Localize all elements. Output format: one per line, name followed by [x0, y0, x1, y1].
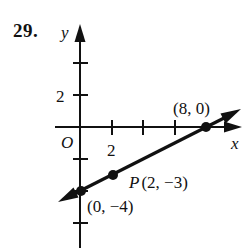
y-tick-label-2: 2 [56, 88, 65, 105]
x-axis-arrow-icon [224, 122, 242, 133]
y-axis [73, 24, 88, 248]
point-label-8-0: (8, 0) [173, 100, 210, 117]
point-coords-p: (2, −3) [141, 173, 187, 192]
point-0-neg4 [76, 186, 86, 196]
point-p-2-neg3 [108, 170, 118, 180]
y-axis-label: y [61, 24, 69, 41]
x-axis-label: x [231, 135, 239, 152]
point-label-0-neg4: (0, −4) [87, 198, 133, 215]
point-8-0 [201, 122, 211, 132]
x-tick-label-2: 2 [107, 142, 116, 159]
line-arrow-right-icon [221, 109, 242, 124]
origin-label: O [61, 134, 73, 151]
point-label-p: P(2, −3) [129, 174, 188, 191]
y-axis-arrow-icon [75, 24, 86, 42]
point-name-p: P [129, 173, 139, 192]
line-arrow-left-icon [58, 188, 79, 203]
